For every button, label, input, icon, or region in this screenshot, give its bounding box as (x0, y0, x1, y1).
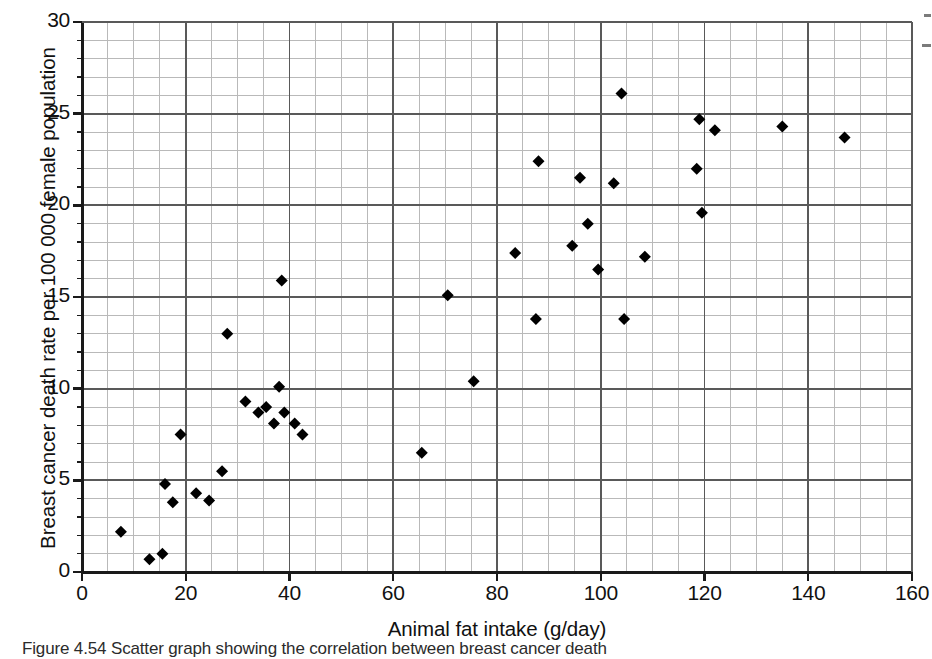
data-point-marker (592, 264, 604, 276)
figure-caption-text: Scatter graph showing the correlation be… (111, 639, 607, 658)
data-point-marker (566, 240, 578, 252)
page-artifact-second (922, 44, 931, 47)
data-point-marker (289, 418, 301, 430)
data-point-marker (416, 447, 428, 459)
data-point-marker (221, 328, 233, 340)
data-points-layer (82, 22, 912, 572)
data-point-marker (608, 177, 620, 189)
data-point-marker (167, 496, 179, 508)
y-tick-label: 20 (14, 191, 70, 215)
data-point-marker (693, 113, 705, 125)
data-point-marker (143, 553, 155, 565)
y-tick-label: 25 (14, 100, 70, 124)
data-point-marker (509, 247, 521, 259)
plot-area (82, 22, 912, 572)
data-point-marker (278, 407, 290, 419)
figure-caption: Figure 4.54 Scatter graph showing the co… (22, 639, 912, 659)
data-point-marker (776, 121, 788, 133)
data-point-marker (268, 418, 280, 430)
data-point-marker (616, 88, 628, 100)
x-tick-label: 0 (42, 581, 122, 605)
x-tick-label: 140 (768, 581, 848, 605)
x-tick-label: 60 (353, 581, 433, 605)
x-tick-label: 100 (561, 581, 641, 605)
data-point-marker (239, 396, 251, 408)
x-tick-label: 80 (457, 581, 537, 605)
data-point-marker (639, 251, 651, 263)
data-point-marker (574, 172, 586, 184)
y-tick-label: 30 (14, 8, 70, 32)
data-point-marker (618, 313, 630, 325)
x-axis-title: Animal fat intake (g/day) (82, 617, 912, 641)
data-point-marker (839, 132, 851, 144)
data-point-marker (156, 548, 168, 560)
data-point-marker (709, 124, 721, 136)
x-tick-label: 120 (665, 581, 745, 605)
data-point-marker (468, 375, 480, 387)
x-tick-label: 160 (872, 581, 932, 605)
x-tick-label: 20 (146, 581, 226, 605)
data-point-marker (533, 155, 545, 167)
y-tick-label: 5 (14, 466, 70, 490)
data-point-marker (276, 275, 288, 287)
data-point-marker (442, 289, 454, 301)
y-tick-label: 15 (14, 283, 70, 307)
data-point-marker (273, 381, 285, 393)
figure-caption-number: Figure 4.54 (22, 639, 106, 658)
data-point-marker (691, 163, 703, 175)
data-point-marker (530, 313, 542, 325)
y-tick-label: 0 (14, 558, 70, 582)
y-tick-label: 10 (14, 375, 70, 399)
data-point-marker (115, 526, 127, 538)
data-point-marker (696, 207, 708, 219)
data-point-marker (216, 465, 228, 477)
data-point-marker (159, 478, 171, 490)
data-point-marker (190, 487, 202, 499)
x-tick-label: 40 (250, 581, 330, 605)
data-point-marker (582, 218, 594, 230)
page-artifact-top (924, 14, 931, 17)
data-point-marker (203, 495, 215, 507)
data-point-marker (296, 429, 308, 441)
data-point-marker (175, 429, 187, 441)
